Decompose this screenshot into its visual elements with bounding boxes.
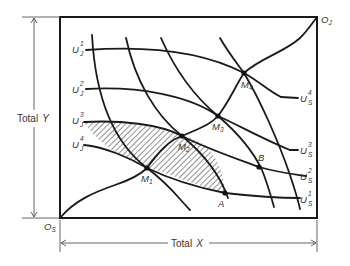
uj1-label: U 1 J bbox=[72, 40, 84, 57]
point-b bbox=[256, 164, 261, 169]
svg-text:S: S bbox=[308, 177, 313, 184]
m1-label: M1 bbox=[141, 173, 153, 185]
uj2-label: U 2 J bbox=[72, 80, 84, 97]
b-label: B bbox=[258, 152, 265, 163]
svg-text:U: U bbox=[72, 44, 79, 55]
svg-text:J: J bbox=[79, 50, 84, 57]
m4-label: M4 bbox=[241, 79, 253, 91]
svg-text:2: 2 bbox=[307, 167, 312, 174]
a-label: A bbox=[217, 198, 224, 209]
svg-text:U: U bbox=[300, 171, 307, 182]
svg-text:S: S bbox=[308, 99, 313, 106]
svg-text:S: S bbox=[308, 151, 313, 158]
svg-text:1: 1 bbox=[80, 40, 84, 47]
svg-text:3: 3 bbox=[308, 141, 312, 148]
svg-text:U: U bbox=[72, 115, 79, 126]
uj4-label: U 4 J bbox=[72, 135, 84, 152]
svg-text:2: 2 bbox=[79, 80, 84, 87]
us1-label: U 1 S bbox=[300, 190, 313, 207]
svg-text:U: U bbox=[300, 93, 307, 104]
svg-text:3: 3 bbox=[80, 111, 84, 118]
us4-label: U 4 S bbox=[281, 89, 313, 106]
m3-label: M3 bbox=[212, 121, 224, 133]
us2-label: U 2 S bbox=[300, 167, 313, 184]
svg-text:J: J bbox=[79, 145, 84, 152]
total-x-label: TotalX bbox=[171, 238, 203, 249]
us3-label: U 3 S bbox=[290, 141, 313, 158]
origin-j-label: OJ bbox=[321, 14, 332, 26]
svg-text:4: 4 bbox=[80, 135, 84, 142]
svg-text:J: J bbox=[79, 90, 84, 97]
point-m1 bbox=[144, 165, 149, 170]
svg-text:S: S bbox=[308, 200, 313, 207]
svg-text:U: U bbox=[72, 84, 79, 95]
svg-text:U: U bbox=[72, 139, 79, 150]
point-m4 bbox=[241, 70, 246, 75]
point-m2 bbox=[179, 133, 184, 138]
edgeworth-box-diagram: OS OJ TotalY TotalX U 1 J U 2 J U 3 J U … bbox=[0, 0, 350, 266]
point-m3 bbox=[215, 113, 220, 118]
svg-text:U: U bbox=[300, 194, 307, 205]
contract-curve bbox=[60, 17, 317, 218]
total-y-label: TotalY bbox=[17, 113, 50, 124]
svg-text:U: U bbox=[300, 145, 307, 156]
edgeworth-box bbox=[60, 17, 317, 218]
origin-s-label: OS bbox=[44, 221, 56, 233]
svg-text:1: 1 bbox=[308, 190, 312, 197]
uj3-label: U 3 J bbox=[72, 111, 84, 128]
svg-text:4: 4 bbox=[308, 89, 312, 96]
point-a bbox=[222, 190, 227, 195]
